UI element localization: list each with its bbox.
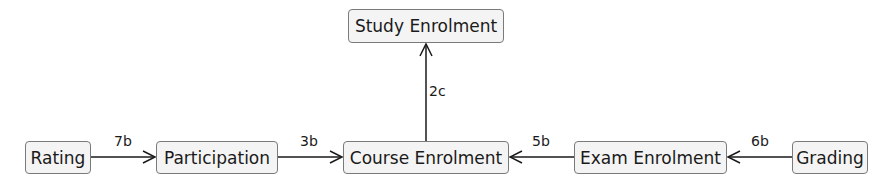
edge-label-6b: 6b bbox=[751, 133, 769, 149]
node-label: Rating bbox=[31, 148, 86, 168]
node-label: Exam Enrolment bbox=[580, 148, 721, 168]
node-label: Grading bbox=[796, 148, 864, 168]
node-grading: Grading bbox=[792, 141, 868, 174]
node-participation: Participation bbox=[156, 141, 278, 174]
edge-label-5b: 5b bbox=[532, 133, 550, 149]
node-study-enrolment: Study Enrolment bbox=[348, 9, 504, 43]
edge-label-7b: 7b bbox=[114, 133, 132, 149]
node-course-enrolment: Course Enrolment bbox=[343, 141, 509, 174]
node-label: Course Enrolment bbox=[350, 148, 502, 168]
edge-label-2c: 2c bbox=[429, 83, 446, 99]
node-label: Study Enrolment bbox=[355, 16, 497, 36]
edge-label-3b: 3b bbox=[300, 133, 318, 149]
node-exam-enrolment: Exam Enrolment bbox=[574, 141, 727, 174]
node-label: Participation bbox=[164, 148, 270, 168]
node-rating: Rating bbox=[25, 141, 91, 174]
